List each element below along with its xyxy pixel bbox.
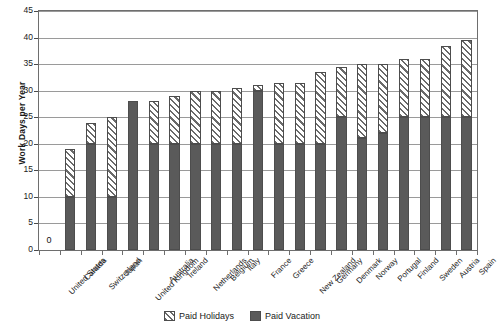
segment-paid-vacation	[295, 144, 305, 250]
bar-new-zealand	[295, 11, 305, 250]
segment-paid-holidays	[211, 91, 221, 144]
bar-belgium	[211, 11, 221, 250]
y-tick-label-30: 30	[3, 86, 33, 94]
segment-paid-holidays	[86, 123, 96, 144]
bar-sweden	[420, 11, 430, 250]
legend-item-paid-holidays: Paid Holidays	[164, 311, 234, 321]
segment-paid-holidays	[107, 117, 117, 197]
segment-paid-vacation	[149, 144, 159, 250]
bar-portugal	[378, 11, 388, 250]
segment-paid-vacation	[357, 138, 367, 250]
segment-paid-vacation	[253, 91, 263, 250]
segment-paid-vacation	[461, 117, 471, 250]
segment-paid-vacation	[65, 197, 75, 250]
bar-spain	[461, 11, 471, 250]
segment-paid-vacation	[315, 144, 325, 250]
x-tick-mark	[248, 251, 249, 255]
x-tick-mark	[477, 251, 478, 255]
x-tick-mark	[268, 251, 269, 255]
bar-germany	[315, 11, 325, 250]
y-tick-mark-15	[34, 170, 38, 171]
segment-paid-vacation	[232, 144, 242, 250]
segment-paid-vacation	[86, 144, 96, 250]
segment-paid-vacation	[420, 117, 430, 250]
y-tick-mark-25	[34, 117, 38, 118]
x-tick-mark	[414, 251, 415, 255]
segment-paid-vacation	[190, 144, 200, 250]
segment-paid-holidays	[232, 88, 242, 144]
x-tick-mark	[164, 251, 165, 255]
x-tick-mark	[39, 251, 40, 255]
chart-legend: Paid Holidays Paid Vacation	[0, 311, 484, 321]
segment-paid-holidays	[378, 64, 388, 133]
y-tick-label-15: 15	[3, 165, 33, 173]
y-tick-label-5: 5	[3, 218, 33, 226]
x-tick-mark	[456, 251, 457, 255]
y-tick-mark-45	[34, 11, 38, 12]
bar-ireland	[169, 11, 179, 250]
x-tick-mark	[289, 251, 290, 255]
y-tick-label-20: 20	[3, 139, 33, 147]
legend-label-paid-vacation: Paid Vacation	[265, 311, 320, 321]
segment-paid-holidays	[274, 83, 284, 144]
x-axis-label-spain: Spain	[477, 256, 497, 277]
bar-united-states	[44, 11, 54, 250]
segment-paid-holidays	[420, 59, 430, 117]
x-tick-mark	[206, 251, 207, 255]
segment-paid-holidays	[190, 91, 200, 144]
x-tick-mark	[227, 251, 228, 255]
bar-united-kingdom	[128, 11, 138, 250]
y-tick-mark-10	[34, 197, 38, 198]
segment-paid-holidays	[253, 85, 263, 90]
y-tick-label-25: 25	[3, 112, 33, 120]
bar-finland	[399, 11, 409, 250]
y-tick-label-35: 35	[3, 59, 33, 67]
paid-holidays-swatch-icon	[164, 311, 175, 321]
y-tick-label-40: 40	[3, 33, 33, 41]
segment-paid-vacation	[107, 197, 117, 250]
bar-japan	[107, 11, 117, 250]
zero-value-annotation: 0	[46, 235, 51, 245]
segment-paid-holidays	[461, 40, 471, 117]
segment-paid-vacation	[336, 117, 346, 250]
segment-paid-vacation	[399, 117, 409, 250]
y-tick-mark-0	[34, 250, 38, 251]
segment-paid-holidays	[169, 96, 179, 144]
x-tick-mark	[373, 251, 374, 255]
bar-canada	[65, 11, 75, 250]
x-tick-mark	[185, 251, 186, 255]
x-tick-mark	[331, 251, 332, 255]
x-axis-label-france: France	[269, 256, 293, 280]
segment-paid-holidays	[441, 46, 451, 118]
bar-greece	[274, 11, 284, 250]
bar-france	[253, 11, 263, 250]
x-tick-mark	[102, 251, 103, 255]
x-axis-label-greece: Greece	[291, 256, 316, 281]
bar-denmark	[336, 11, 346, 250]
x-tick-mark	[435, 251, 436, 255]
segment-paid-vacation	[378, 133, 388, 250]
y-tick-mark-35	[34, 64, 38, 65]
x-tick-mark	[143, 251, 144, 255]
segment-paid-holidays	[315, 72, 325, 144]
bar-austria	[441, 11, 451, 250]
bar-switzerland	[86, 11, 96, 250]
segment-paid-holidays	[336, 67, 346, 117]
y-tick-label-45: 45	[3, 6, 33, 14]
x-axis-label-japan: Japan	[122, 256, 144, 278]
x-tick-mark	[60, 251, 61, 255]
segment-paid-holidays	[65, 149, 75, 197]
bar-italy	[232, 11, 242, 250]
segment-paid-vacation	[441, 117, 451, 250]
y-tick-label-10: 10	[3, 192, 33, 200]
y-tick-label-0: 0	[3, 245, 33, 253]
segment-paid-vacation	[211, 144, 221, 250]
segment-paid-holidays	[357, 64, 367, 138]
y-tick-mark-30	[34, 91, 38, 92]
legend-label-paid-holidays: Paid Holidays	[179, 311, 234, 321]
bar-netherlands	[190, 11, 200, 250]
paid-vacation-swatch-icon	[250, 311, 261, 321]
x-tick-mark	[394, 251, 395, 255]
segment-paid-holidays	[295, 83, 305, 144]
